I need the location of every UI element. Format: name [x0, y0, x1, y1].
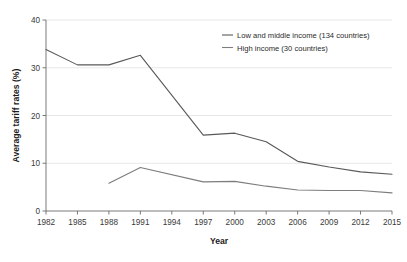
- x-tick-label-1985: 1985: [68, 218, 87, 227]
- legend-label-1: High income (30 countries): [237, 44, 328, 53]
- y-axis-title: Average tariff rates (%): [11, 68, 21, 162]
- x-tick-label-2003: 2003: [257, 218, 276, 227]
- y-tick-label-10: 10: [31, 159, 41, 168]
- y-tick-label-20: 20: [31, 112, 41, 121]
- x-tick-label-2015: 2015: [383, 218, 402, 227]
- x-tick-label-2006: 2006: [289, 218, 308, 227]
- line-chart: 0102030401982198519881991199419972000200…: [0, 0, 407, 262]
- legend-label-0: Low and middle income (134 countries): [237, 31, 370, 40]
- x-tick-label-2012: 2012: [351, 218, 370, 227]
- x-axis-title: Year: [210, 236, 229, 246]
- y-tick-label-40: 40: [31, 16, 41, 25]
- y-tick-label-30: 30: [31, 64, 41, 73]
- series-line-1: [109, 168, 392, 193]
- x-tick-label-1994: 1994: [163, 218, 182, 227]
- x-tick-label-2009: 2009: [320, 218, 339, 227]
- x-tick-label-1991: 1991: [131, 218, 150, 227]
- x-tick-label-1997: 1997: [194, 218, 213, 227]
- series-line-0: [46, 50, 392, 175]
- chart-figure: 0102030401982198519881991199419972000200…: [0, 0, 407, 262]
- x-tick-label-1982: 1982: [37, 218, 56, 227]
- x-tick-label-1988: 1988: [100, 218, 119, 227]
- x-tick-label-2000: 2000: [226, 218, 245, 227]
- y-tick-label-0: 0: [35, 207, 40, 216]
